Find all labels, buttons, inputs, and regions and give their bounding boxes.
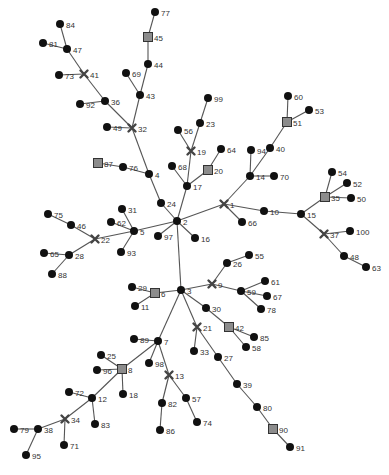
node-label: 46	[77, 222, 86, 231]
node-30: 30	[202, 304, 221, 314]
node-26: 26	[223, 259, 242, 269]
circle-node-icon	[297, 210, 305, 218]
node-label: 87	[104, 160, 113, 169]
node-87: 87	[94, 159, 114, 169]
node-83: 83	[91, 420, 110, 430]
node-label: 67	[273, 293, 282, 302]
node-8: 8	[118, 365, 134, 375]
circle-node-icon	[174, 126, 182, 134]
node-label: 76	[129, 164, 138, 173]
node-51: 51	[283, 118, 303, 128]
node-60: 60	[284, 92, 303, 102]
node-label: 79	[20, 426, 29, 435]
node-label: 95	[32, 452, 41, 461]
node-label: 37	[330, 231, 339, 240]
node-80: 80	[253, 403, 272, 413]
circle-node-icon	[151, 8, 159, 16]
circle-node-icon	[328, 168, 336, 176]
circle-node-icon	[182, 394, 190, 402]
circle-node-icon	[97, 351, 105, 359]
node-label: 71	[70, 442, 79, 451]
node-label: 93	[127, 249, 136, 258]
edge-3-9	[181, 284, 212, 290]
node-32: 32	[129, 125, 148, 134]
node-67: 67	[263, 292, 282, 302]
circle-node-icon	[156, 426, 164, 434]
circle-node-icon	[261, 277, 269, 285]
node-label: 57	[192, 395, 201, 404]
node-15: 15	[297, 210, 316, 220]
circle-node-icon	[65, 251, 73, 259]
circle-node-icon	[204, 94, 212, 102]
node-14: 14	[246, 172, 265, 182]
circle-node-icon	[286, 443, 294, 451]
node-40: 40	[266, 144, 285, 154]
node-label: 91	[296, 444, 305, 453]
node-24: 24	[157, 199, 176, 209]
circle-node-icon	[190, 347, 198, 355]
circle-node-icon	[168, 162, 176, 170]
circle-node-icon	[48, 270, 56, 278]
node-label: 61	[271, 278, 280, 287]
node-62: 62	[107, 218, 126, 228]
node-label: 66	[248, 219, 257, 228]
circle-node-icon	[238, 218, 246, 226]
node-label: 38	[44, 426, 53, 435]
circle-node-icon	[63, 45, 71, 53]
circle-node-icon	[88, 394, 96, 402]
node-66: 66	[238, 218, 257, 228]
node-88: 88	[48, 270, 67, 280]
square-node-icon	[94, 159, 103, 168]
circle-node-icon	[117, 248, 125, 256]
circle-node-icon	[245, 251, 253, 259]
tree-diagram: 7745446943324936924173478184476872429923…	[0, 0, 389, 475]
square-node-icon	[225, 323, 234, 332]
circle-node-icon	[107, 218, 115, 226]
node-89: 89	[130, 335, 149, 345]
node-36: 36	[101, 97, 120, 107]
node-29: 29	[128, 283, 147, 293]
node-label: 53	[315, 107, 324, 116]
node-50: 50	[347, 194, 366, 204]
node-label: 31	[128, 206, 137, 215]
circle-node-icon	[34, 425, 42, 433]
node-label: 4	[155, 171, 160, 180]
circle-node-icon	[340, 252, 348, 260]
node-10: 10	[260, 207, 279, 217]
node-label: 9	[218, 281, 223, 290]
node-label: 27	[224, 354, 233, 363]
node-59: 59	[237, 287, 256, 297]
node-73: 73	[55, 71, 74, 81]
circle-node-icon	[191, 234, 199, 242]
circle-node-icon	[118, 205, 126, 213]
node-79: 79	[10, 425, 29, 435]
circle-node-icon	[217, 145, 225, 153]
node-label: 77	[161, 9, 170, 18]
node-label: 89	[140, 336, 149, 345]
node-52: 52	[343, 179, 362, 189]
node-label: 55	[255, 252, 264, 261]
node-label: 15	[307, 211, 316, 220]
node-93: 93	[117, 248, 136, 258]
node-label: 36	[111, 98, 120, 107]
node-82: 82	[158, 399, 177, 409]
node-78: 78	[257, 305, 276, 315]
node-label: 88	[58, 271, 67, 280]
node-label: 60	[294, 93, 303, 102]
node-65: 65	[40, 249, 59, 259]
square-node-icon	[144, 33, 153, 42]
circle-node-icon	[305, 106, 313, 114]
node-85: 85	[250, 333, 269, 343]
node-label: 51	[293, 119, 302, 128]
circle-node-icon	[91, 420, 99, 428]
node-label: 84	[66, 21, 75, 30]
node-label: 17	[193, 183, 202, 192]
node-6: 6	[151, 289, 167, 299]
node-label: 5	[140, 228, 145, 237]
edge-19-17	[187, 151, 191, 186]
node-label: 96	[103, 367, 112, 376]
node-75: 75	[44, 210, 63, 220]
node-label: 90	[279, 426, 288, 435]
circle-node-icon	[260, 207, 268, 215]
node-label: 11	[141, 303, 150, 312]
